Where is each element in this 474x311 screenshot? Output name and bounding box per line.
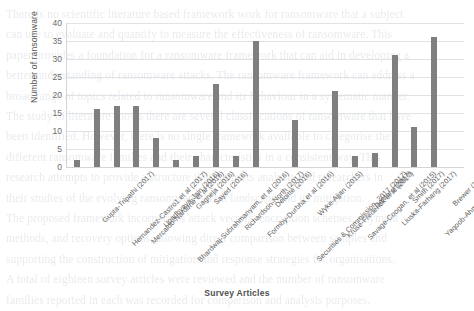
bar <box>193 156 199 167</box>
bar <box>153 138 159 167</box>
y-tick-label: 40 <box>53 18 62 28</box>
y-tick-label: 15 <box>53 108 62 118</box>
bar <box>352 156 358 167</box>
bar <box>372 153 378 167</box>
y-axis-tick-labels: 4035302520151050 <box>40 23 62 167</box>
y-tick-label: 35 <box>53 36 62 46</box>
bar-slot <box>305 23 325 167</box>
bar-slot <box>404 23 424 167</box>
bar-slot <box>365 23 385 167</box>
bar-slot <box>325 23 345 167</box>
bar <box>213 84 219 167</box>
axis-baseline <box>67 167 464 168</box>
bar <box>392 55 398 167</box>
bar-slot <box>285 23 305 167</box>
bar-slot <box>385 23 405 167</box>
y-tick-label: 10 <box>53 126 62 136</box>
bar-slot <box>206 23 226 167</box>
y-tick-label: 20 <box>53 90 62 100</box>
bar <box>94 109 100 167</box>
bar <box>114 106 120 167</box>
y-tick-label: 0 <box>57 162 62 172</box>
x-axis-tick-labels: Gupta-Tripathi (2017)Hernandez-Castro1 e… <box>67 169 464 279</box>
bar-slot <box>345 23 365 167</box>
bar <box>233 156 239 167</box>
y-axis-title: Number of ransomware <box>29 0 39 122</box>
x-axis-title: Survey Articles <box>0 288 474 298</box>
bar <box>411 127 417 167</box>
bar-slot <box>444 23 464 167</box>
bar <box>292 120 298 167</box>
bar-series <box>67 23 464 167</box>
bar-slot <box>107 23 127 167</box>
bar <box>133 106 139 167</box>
bar <box>253 41 259 167</box>
bar-slot <box>424 23 444 167</box>
bar-slot <box>226 23 246 167</box>
bar-slot <box>266 23 286 167</box>
bar-slot <box>146 23 166 167</box>
ransomware-bar-chart: 4035302520151050 Number of ransomware Gu… <box>0 0 474 311</box>
bar-slot <box>127 23 147 167</box>
bar-slot <box>166 23 186 167</box>
bar-slot <box>186 23 206 167</box>
bar <box>431 37 437 167</box>
y-tick-label: 30 <box>53 54 62 64</box>
y-tick-label: 5 <box>57 144 62 154</box>
bar <box>332 91 338 167</box>
y-tick-label: 25 <box>53 72 62 82</box>
bar-slot <box>67 23 87 167</box>
bar <box>74 160 80 167</box>
bar-slot <box>87 23 107 167</box>
bar-slot <box>246 23 266 167</box>
x-tick-label: Gupta-Tripathi (2017) <box>100 169 156 225</box>
bar <box>173 160 179 167</box>
